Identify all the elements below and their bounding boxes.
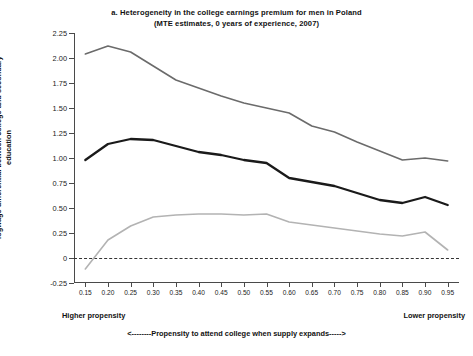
x-tick-mark xyxy=(221,283,222,287)
x-tick-mark xyxy=(448,283,449,287)
y-tick-label: 0.50 xyxy=(53,204,67,213)
chart-title: a. Heterogeneity in the college earnings… xyxy=(0,7,473,18)
x-tick-label: 0.85 xyxy=(396,289,409,296)
y-axis-title: logwage differential between college and… xyxy=(0,40,14,255)
x-tick-mark xyxy=(267,283,268,287)
x-tick-mark xyxy=(289,283,290,287)
series-lines xyxy=(74,33,459,283)
x-tick-mark xyxy=(312,283,313,287)
x-tick-mark xyxy=(334,283,335,287)
y-tick-label: 0.75 xyxy=(53,179,67,188)
x-tick-label: 0.35 xyxy=(169,289,182,296)
x-tick-mark xyxy=(108,283,109,287)
series-line xyxy=(85,214,447,269)
x-tick-label: 0.55 xyxy=(260,289,273,296)
x-tick-label: 0.65 xyxy=(305,289,318,296)
x-tick-mark xyxy=(425,283,426,287)
x-tick-mark xyxy=(153,283,154,287)
y-tick-label: -0.25 xyxy=(50,279,67,288)
x-tick-label: 0.30 xyxy=(147,289,160,296)
y-tick-label: 2.25 xyxy=(53,29,67,38)
x-tick-label: 0.70 xyxy=(328,289,341,296)
y-tick-label: 1.00 xyxy=(53,154,67,163)
x-tick-label: 0.60 xyxy=(283,289,296,296)
chart-figure: a. Heterogeneity in the college earnings… xyxy=(0,0,473,356)
y-tick-label: 0.25 xyxy=(53,229,67,238)
x-tick-mark xyxy=(131,283,132,287)
series-line xyxy=(85,46,447,161)
x-tick-label: 0.80 xyxy=(373,289,386,296)
annotation-higher-propensity: Higher propensity xyxy=(62,311,125,320)
x-tick-mark xyxy=(199,283,200,287)
y-tick-label: 0 xyxy=(63,254,67,263)
y-tick-label: 1.25 xyxy=(53,129,67,138)
y-tick-mark xyxy=(69,283,74,284)
x-axis-title: <--------Propensity to attend college wh… xyxy=(0,329,473,338)
x-tick-label: 0.40 xyxy=(192,289,205,296)
series-line xyxy=(85,139,447,205)
x-tick-mark xyxy=(176,283,177,287)
x-tick-label: 0.15 xyxy=(79,289,92,296)
x-tick-mark xyxy=(244,283,245,287)
x-tick-label: 0.95 xyxy=(441,289,454,296)
x-tick-label: 0.45 xyxy=(215,289,228,296)
x-tick-label: 0.25 xyxy=(124,289,137,296)
chart-title-block: a. Heterogeneity in the college earnings… xyxy=(0,7,473,29)
x-tick-mark xyxy=(402,283,403,287)
x-tick-mark xyxy=(357,283,358,287)
annotation-lower-propensity: Lower propensity xyxy=(403,311,465,320)
x-tick-mark xyxy=(380,283,381,287)
y-tick-label: 2.00 xyxy=(53,54,67,63)
x-tick-mark xyxy=(85,283,86,287)
plot-area: 2.252.001.751.501.251.000.750.500.250-0.… xyxy=(74,33,459,283)
x-tick-label: 0.20 xyxy=(102,289,115,296)
chart-subtitle: (MTE estimates, 0 years of experience, 2… xyxy=(0,18,473,29)
y-tick-label: 1.75 xyxy=(53,79,67,88)
x-tick-label: 0.90 xyxy=(419,289,432,296)
x-tick-label: 0.50 xyxy=(237,289,250,296)
x-tick-label: 0.75 xyxy=(351,289,364,296)
y-tick-label: 1.50 xyxy=(53,104,67,113)
